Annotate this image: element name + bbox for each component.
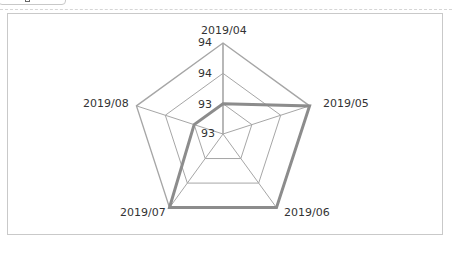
radar-series [170, 104, 310, 208]
radial-tick-label-3: 94 [198, 67, 212, 80]
series-line [170, 104, 310, 208]
radial-tick-label-1: 93 [201, 127, 215, 140]
grid-spoke [223, 106, 310, 134]
radar-labels: 2019/04 2019/05 2019/06 2019/07 2019/08 … [83, 24, 369, 219]
category-label-2019-05: 2019/05 [323, 97, 369, 110]
radial-tick-label-2: 93 [198, 98, 212, 111]
grid-spoke [170, 134, 223, 208]
radar-chart: 2019/04 2019/05 2019/06 2019/07 2019/08 … [0, 0, 452, 256]
radial-tick-label-4: 94 [198, 36, 212, 49]
category-label-2019-07: 2019/07 [120, 206, 166, 219]
category-label-2019-08: 2019/08 [83, 97, 129, 110]
grid-spoke [223, 134, 276, 208]
category-label-2019-06: 2019/06 [284, 206, 330, 219]
